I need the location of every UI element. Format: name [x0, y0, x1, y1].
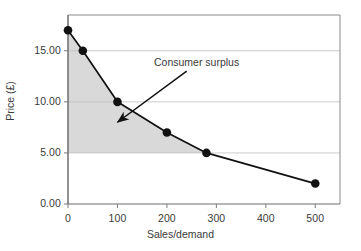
- x-tick-label-300: 300: [191, 212, 241, 224]
- x-tick-label-500: 500: [290, 212, 340, 224]
- y-tick-label-15: 15.00: [8, 44, 61, 56]
- y-tick-label-10: 10.00: [8, 95, 61, 107]
- x-tick-label-100: 100: [92, 212, 142, 224]
- y-tick-label-0: 0.00: [8, 197, 61, 209]
- consumer-surplus-annotation-label: Consumer surplus: [154, 56, 239, 68]
- x-tick-label-400: 400: [241, 212, 291, 224]
- data-point-280-5: [202, 149, 211, 158]
- x-tick-label-200: 200: [142, 212, 192, 224]
- x-tick-label-0: 0: [43, 212, 93, 224]
- data-point-30-15: [79, 46, 88, 55]
- x-axis-title: Sales/demand: [0, 228, 361, 240]
- data-point-0-17: [64, 26, 73, 35]
- data-point-500-2: [311, 179, 320, 188]
- y-tick-label-5: 5.00: [8, 146, 61, 158]
- chart-container: Consumer surplus Price (£) Sales/demand …: [0, 0, 361, 251]
- data-point-200-7: [163, 128, 172, 137]
- x-axis-ticks: [68, 204, 315, 208]
- data-point-100-10: [113, 98, 122, 107]
